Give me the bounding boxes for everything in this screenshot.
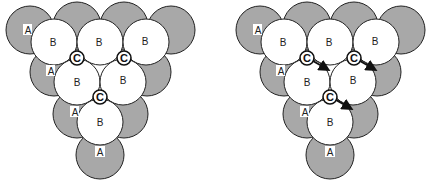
- a-label: A: [278, 66, 285, 77]
- b-label: B: [96, 37, 103, 48]
- c-label: C: [120, 52, 128, 64]
- b-label: B: [327, 117, 334, 128]
- a-label: A: [72, 107, 79, 118]
- c-label: C: [96, 91, 104, 103]
- b-label: B: [280, 37, 287, 48]
- b-label: B: [372, 36, 379, 47]
- b-label: B: [97, 117, 104, 128]
- c-label: C: [326, 91, 334, 103]
- packing-diagrams: B B B B B B A A A A C C C: [0, 0, 426, 181]
- c-label: C: [73, 52, 81, 64]
- a-label: A: [302, 107, 309, 118]
- a-label: A: [255, 25, 262, 36]
- b-label: B: [326, 37, 333, 48]
- b-label: B: [120, 75, 127, 86]
- b-label: B: [74, 77, 81, 88]
- b-label: B: [304, 77, 311, 88]
- b-label: B: [50, 37, 57, 48]
- c-label: C: [350, 52, 358, 64]
- left-diagram: B B B B B B A A A A C C C: [6, 2, 195, 179]
- a-label: A: [48, 66, 55, 77]
- b-label: B: [142, 36, 149, 47]
- right-diagram: B B B B B B A A A A C C C: [236, 2, 425, 179]
- c-label: C: [303, 52, 311, 64]
- b-label: B: [350, 75, 357, 86]
- a-label: A: [25, 25, 32, 36]
- a-label: A: [97, 147, 104, 158]
- a-label: A: [327, 147, 334, 158]
